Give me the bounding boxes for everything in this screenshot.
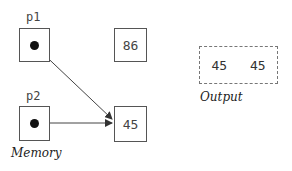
output-value: 45	[250, 58, 266, 73]
pointer-label-p1: p1	[26, 10, 40, 24]
output-caption: Output	[200, 90, 243, 104]
pointer-cell-p1	[19, 28, 50, 62]
output-value: 45	[211, 58, 227, 73]
memory-cell-86: 86	[114, 28, 147, 62]
pointer-dot	[30, 41, 39, 50]
pointer-label-p2: p2	[26, 89, 40, 103]
pointer-cell-p2	[19, 106, 50, 141]
pointer-dot	[30, 119, 39, 128]
memory-caption: Memory	[11, 146, 62, 160]
memory-cell-45: 45	[114, 106, 147, 142]
output-box: 45 45	[199, 46, 278, 84]
